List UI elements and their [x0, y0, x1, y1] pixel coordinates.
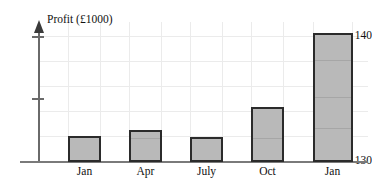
bar-seam [315, 97, 351, 98]
x-label-jan-1: Jan [58, 165, 111, 178]
bar-july[interactable] [190, 137, 223, 162]
bar-chart: 140 130 Profit (£1000) Jan Apr July Oct … [0, 0, 372, 189]
bar-jan-2[interactable] [313, 33, 353, 162]
bar-seam [315, 128, 351, 129]
bar-oct[interactable] [251, 107, 284, 162]
bar-jan-1[interactable] [68, 136, 101, 162]
x-label-jan-2: Jan [306, 165, 359, 178]
bar-apr[interactable] [129, 130, 162, 162]
x-label-oct: Oct [241, 165, 294, 178]
x-label-apr: Apr [119, 165, 172, 178]
bar-seam [315, 60, 351, 61]
bars-layer [0, 0, 372, 189]
bar-seam [253, 138, 282, 139]
x-label-july: July [180, 165, 233, 178]
bar-seam [131, 138, 160, 139]
